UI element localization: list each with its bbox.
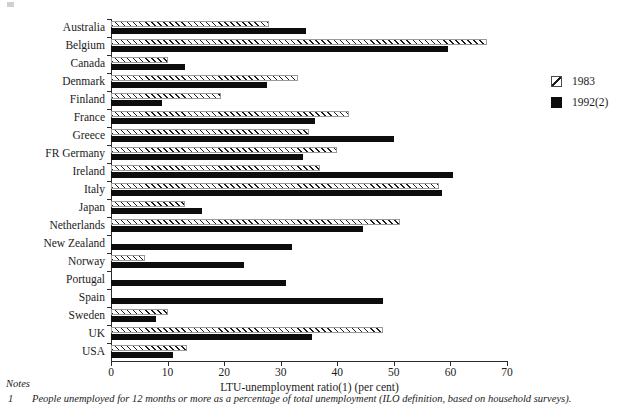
bar-1992-italy xyxy=(111,190,442,197)
y-axis-label-usa: USA xyxy=(0,343,105,360)
chart-row: Netherlands xyxy=(111,217,507,234)
chart-row: Spain xyxy=(111,289,507,306)
bar-1983-uk xyxy=(111,327,383,334)
y-axis-label-belgium: Belgium xyxy=(0,37,105,54)
chart-row: Portugal xyxy=(111,271,507,288)
chart-row: France xyxy=(111,109,507,126)
y-axis-tick xyxy=(107,289,111,290)
bar-1983-denmark xyxy=(111,75,298,82)
legend-item-1983: 1983 xyxy=(551,74,635,91)
chart-row: Finland xyxy=(111,91,507,108)
x-axis-tick-label-30: 30 xyxy=(261,366,301,378)
x-axis-tick-label-60: 60 xyxy=(430,366,470,378)
chart-row: Canada xyxy=(111,55,507,72)
bar-1983-usa xyxy=(111,345,187,352)
chart-row: Belgium xyxy=(111,37,507,54)
bar-1992-belgium xyxy=(111,46,448,53)
y-axis-label-sweden: Sweden xyxy=(0,307,105,324)
bar-1992-canada xyxy=(111,64,185,71)
bar-1983-sweden xyxy=(111,309,168,316)
bar-1992-portugal xyxy=(111,280,286,287)
x-axis-tick-label-20: 20 xyxy=(204,366,244,378)
y-axis-label-portugal: Portugal xyxy=(0,271,105,288)
y-axis-label-japan: Japan xyxy=(0,199,105,216)
note-item: 1 People unemployed for 12 months or mor… xyxy=(6,392,636,405)
y-axis-label-canada: Canada xyxy=(0,55,105,72)
bar-1992-france xyxy=(111,118,315,125)
y-axis-tick xyxy=(107,235,111,236)
bar-1983-japan xyxy=(111,201,185,208)
legend-item-1992: 1992(2) xyxy=(551,95,635,112)
y-axis-label-uk: UK xyxy=(0,325,105,342)
y-axis-label-fr-germany: FR Germany xyxy=(0,145,105,162)
y-axis-label-italy: Italy xyxy=(0,181,105,198)
x-axis-tick-label-50: 50 xyxy=(374,366,414,378)
y-axis-label-netherlands: Netherlands xyxy=(0,217,105,234)
bar-1983-canada xyxy=(111,57,168,64)
legend-label-1983: 1983 xyxy=(572,74,595,89)
legend-label-1992: 1992(2) xyxy=(572,95,608,110)
plot-area: AustraliaBelgiumCanadaDenmarkFinlandFran… xyxy=(111,19,507,361)
chart-row: Italy xyxy=(111,181,507,198)
bar-1992-finland xyxy=(111,100,162,107)
bar-1992-uk xyxy=(111,334,312,341)
bar-1992-sweden xyxy=(111,316,156,323)
chart-row: UK xyxy=(111,325,507,342)
x-axis-tick-label-0: 0 xyxy=(91,366,131,378)
scan-artifact xyxy=(7,2,14,7)
chart-row: New Zealand xyxy=(111,235,507,252)
bar-1992-usa xyxy=(111,352,173,359)
chart-row: Japan xyxy=(111,199,507,216)
notes-heading: Notes xyxy=(6,378,636,389)
x-axis-tick-label-40: 40 xyxy=(317,366,357,378)
ltu-unemployment-bar-chart: AustraliaBelgiumCanadaDenmarkFinlandFran… xyxy=(0,0,638,412)
y-axis-label-new-zealand: New Zealand xyxy=(0,235,105,252)
bar-1983-france xyxy=(111,111,349,118)
bar-1983-australia xyxy=(111,21,269,28)
bar-1992-australia xyxy=(111,28,306,35)
bar-1983-belgium xyxy=(111,39,487,46)
y-axis-tick xyxy=(107,271,111,272)
chart-row: Australia xyxy=(111,19,507,36)
chart-row: Ireland xyxy=(111,163,507,180)
x-axis-tick-label-70: 70 xyxy=(487,366,527,378)
chart-row: Greece xyxy=(111,127,507,144)
chart-row: Denmark xyxy=(111,73,507,90)
bar-1983-italy xyxy=(111,183,439,190)
legend-swatch-hatch-icon xyxy=(551,76,562,87)
chart-legend: 1983 1992(2) xyxy=(551,74,635,116)
y-axis-label-france: France xyxy=(0,109,105,126)
y-axis-label-finland: Finland xyxy=(0,91,105,108)
bar-1992-japan xyxy=(111,208,202,215)
bar-1992-new-zealand xyxy=(111,244,292,251)
bar-1983-fr-germany xyxy=(111,147,337,154)
y-axis-label-spain: Spain xyxy=(0,289,105,306)
x-axis-line xyxy=(111,361,508,362)
bar-1983-netherlands xyxy=(111,219,400,226)
chart-row: Sweden xyxy=(111,307,507,324)
y-axis-label-norway: Norway xyxy=(0,253,105,270)
bar-1992-fr-germany xyxy=(111,154,303,161)
y-axis-label-ireland: Ireland xyxy=(0,163,105,180)
note-text: People unemployed for 12 months or more … xyxy=(32,393,571,404)
y-axis-label-australia: Australia xyxy=(0,19,105,36)
bar-1983-ireland xyxy=(111,165,320,172)
bar-1992-denmark xyxy=(111,82,267,89)
bar-1983-norway xyxy=(111,255,145,262)
bar-1992-spain xyxy=(111,298,383,305)
chart-row: Norway xyxy=(111,253,507,270)
chart-row: USA xyxy=(111,343,507,360)
bar-1992-greece xyxy=(111,136,394,143)
chart-row: FR Germany xyxy=(111,145,507,162)
legend-swatch-solid-icon xyxy=(551,97,562,108)
x-axis-tick-label-10: 10 xyxy=(148,366,188,378)
notes-block: Notes 1 People unemployed for 12 months … xyxy=(6,378,636,405)
y-axis-label-denmark: Denmark xyxy=(0,73,105,90)
y-axis-label-greece: Greece xyxy=(0,127,105,144)
bar-1992-netherlands xyxy=(111,226,363,233)
bar-1983-finland xyxy=(111,93,221,100)
bar-1992-norway xyxy=(111,262,244,269)
bar-1992-ireland xyxy=(111,172,453,179)
note-marker: 1 xyxy=(8,392,13,405)
bar-1983-greece xyxy=(111,129,309,136)
